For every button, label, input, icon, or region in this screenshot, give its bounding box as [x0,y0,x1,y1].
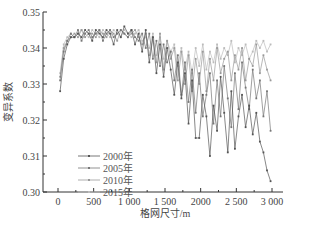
data-point [202,94,204,96]
data-point [220,116,222,118]
data-point [177,54,179,56]
data-point [202,51,204,53]
data-point [270,44,272,46]
data-point [95,29,97,31]
data-point [263,152,265,154]
data-point [102,33,104,35]
data-point [223,65,225,67]
data-point [245,44,247,46]
data-point [238,47,240,49]
data-point [91,29,93,31]
x-ticks: 05001 0001 50020002 5003 000 [56,188,284,207]
data-point [195,112,197,114]
y-tick-label: 0.31 [23,151,41,162]
data-point [159,33,161,35]
data-point [70,36,72,38]
data-point [202,116,204,118]
data-point [106,33,108,35]
data-point [177,62,179,64]
data-point [188,51,190,53]
data-point [263,54,265,56]
data-point [159,44,161,46]
data-point [138,29,140,31]
data-point [220,76,222,78]
data-point [195,58,197,60]
data-point [209,58,211,60]
data-point [88,36,90,38]
data-point [156,72,158,74]
data-point [88,33,90,35]
data-point [81,36,83,38]
data-point [227,51,229,53]
legend-marker [88,167,90,169]
data-point [209,51,211,53]
data-point [163,76,165,78]
data-point [223,58,225,60]
data-point [98,29,100,31]
data-point [131,29,133,31]
data-point [198,65,200,67]
y-tick-label: 0.32 [23,115,41,126]
legend-label: 2000年 [103,150,133,162]
data-point [63,51,65,53]
data-point [134,36,136,38]
data-point [198,137,200,139]
data-point [148,33,150,35]
y-tick-label: 0.34 [23,43,41,54]
y-tick-label: 0.30 [23,187,41,198]
data-point [66,36,68,38]
data-point [173,47,175,49]
data-point [213,62,215,64]
data-point [91,40,93,42]
data-point [81,29,83,31]
data-point [74,36,76,38]
data-point [209,155,211,157]
data-point [234,54,236,56]
data-point [184,62,186,64]
data-point [241,47,243,49]
data-point [141,51,143,53]
data-point [263,116,265,118]
data-point [227,152,229,154]
data-point [120,29,122,31]
data-point [177,80,179,82]
data-point [156,40,158,42]
data-point [270,180,272,182]
data-point [270,130,272,132]
data-point [127,36,129,38]
data-point [77,33,79,35]
data-point [156,62,158,64]
data-point [131,36,133,38]
legend-marker [88,179,90,181]
data-point [63,44,65,46]
data-point [173,80,175,82]
data-point [106,29,108,31]
data-point [191,69,193,71]
data-point [152,33,154,35]
data-point [81,40,83,42]
data-point [95,36,97,38]
data-point [266,170,268,172]
data-point [88,29,90,31]
data-point [91,33,93,35]
data-point [252,69,254,71]
data-point [109,33,111,35]
legend-marker [88,155,90,157]
y-tick-label: 0.35 [23,7,41,18]
x-tick-label: 3 000 [261,196,284,207]
data-point [123,26,125,28]
data-point [66,40,68,42]
data-point [238,69,240,71]
data-point [113,33,115,35]
legend: 2000年2005年2010年2015年 [78,150,133,198]
data-point [166,40,168,42]
data-point [134,33,136,35]
data-point [141,33,143,35]
data-point [195,47,197,49]
data-point [205,94,207,96]
data-point [148,62,150,64]
x-tick-label: 0 [56,196,61,207]
data-point [255,98,257,100]
data-point [227,98,229,100]
data-point [152,58,154,60]
